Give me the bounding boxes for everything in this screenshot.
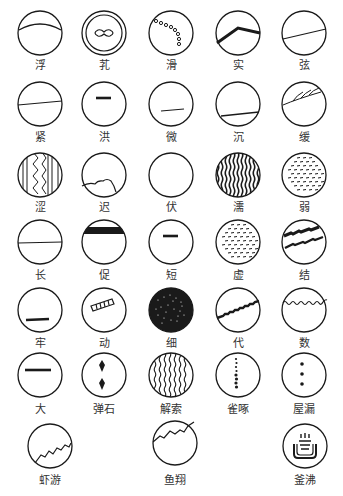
pulse-label: 洪 xyxy=(74,132,134,144)
pulse-zigzag-stripes-icon xyxy=(15,150,65,200)
pulse-label: 实 xyxy=(208,60,268,72)
pulse-figure-lao xyxy=(10,285,70,335)
pulse-label: 釜沸 xyxy=(275,475,335,487)
pulse-figure-xi xyxy=(141,285,201,335)
pulse-label: 虚 xyxy=(208,270,268,282)
pulse-label: 滑 xyxy=(141,60,201,72)
pulse-figure-yuxiang xyxy=(145,418,205,468)
pulse-figure-dong xyxy=(74,285,134,335)
pulse-figure-ruo xyxy=(274,150,334,200)
pulse-figure-xu xyxy=(208,217,268,267)
pulse-feather-icon xyxy=(279,79,329,129)
pulse-label: 弦 xyxy=(274,60,334,72)
pulse-label: 促 xyxy=(74,270,134,282)
pulse-figure-wei xyxy=(141,79,201,129)
pulse-figure-jiesuo xyxy=(141,350,201,400)
pulse-figure-se xyxy=(10,150,70,200)
pulse-bent-thick-icon xyxy=(213,8,263,58)
pulse-rough-diagonal-icon xyxy=(213,285,263,335)
pulse-three-dots-icon xyxy=(279,350,329,400)
pulse-figure-quezhuo xyxy=(208,350,268,400)
pulse-figure-chen xyxy=(208,79,268,129)
pulse-figure-xian xyxy=(274,8,334,58)
pulse-figure-dai xyxy=(208,285,268,335)
pulse-figure-fu xyxy=(10,8,70,58)
pulse-label: 微 xyxy=(141,132,201,144)
pulse-mid-line-icon xyxy=(15,217,65,267)
pulse-label: 大 xyxy=(10,404,70,416)
pulse-beads-icon xyxy=(146,8,196,58)
pulse-dashes-icon xyxy=(279,150,329,200)
pulse-double-ring-icon xyxy=(79,8,129,58)
pulse-top-band-icon xyxy=(79,217,129,267)
pulse-low-waves-icon xyxy=(79,150,129,200)
pulse-wavy-top-icon xyxy=(279,285,329,335)
pulse-low-short-thick-icon xyxy=(15,285,65,335)
pulse-label: 雀啄 xyxy=(208,404,268,416)
pulse-figure-da xyxy=(10,350,70,400)
pulse-label: 屋漏 xyxy=(274,404,334,416)
pulse-figure-hua xyxy=(141,8,201,58)
pulse-upper-line-icon xyxy=(15,79,65,129)
pulse-empty-icon xyxy=(146,150,196,200)
pulse-label: 长 xyxy=(10,270,70,282)
pulse-label: 细 xyxy=(141,338,201,350)
pulse-figure-shu xyxy=(274,285,334,335)
pulse-figure-fu2 xyxy=(141,150,201,200)
pulse-figure-duan xyxy=(141,217,201,267)
pulse-high-jagged-icon xyxy=(150,418,200,468)
pulse-figure-xiayou xyxy=(20,421,80,471)
pulse-figure-shi xyxy=(208,8,268,58)
pulse-label: 伏 xyxy=(141,202,201,214)
pulse-figure-chang xyxy=(10,217,70,267)
pulse-filled-icon xyxy=(146,285,196,335)
pulse-label: 弱 xyxy=(274,202,334,214)
pulse-short-top-thick-icon xyxy=(79,79,129,129)
pulse-upper-short-thick-icon xyxy=(15,350,65,400)
pulse-figure-chi xyxy=(74,150,134,200)
pulse-figure-jie xyxy=(274,217,334,267)
pulse-label: 牢 xyxy=(10,338,70,350)
pulse-label: 结 xyxy=(274,270,334,282)
pulse-label: 沉 xyxy=(208,132,268,144)
pulse-low-jagged-icon xyxy=(25,421,75,471)
pulse-label: 动 xyxy=(74,338,134,350)
pulse-figure-kou xyxy=(74,8,134,58)
pulse-figure-hong xyxy=(74,79,134,129)
pulse-diagonal-line-icon xyxy=(279,8,329,58)
pulse-label: 芤 xyxy=(74,60,134,72)
pulse-label: 浮 xyxy=(10,60,70,72)
pulse-label: 迟 xyxy=(74,202,134,214)
pulse-dashes-icon xyxy=(213,217,263,267)
pulse-double-rough-icon xyxy=(279,217,329,267)
pulse-label: 弹石 xyxy=(74,404,134,416)
pulse-cauldron-icon xyxy=(280,421,330,471)
pulse-low-line-icon xyxy=(213,79,263,129)
pulse-label: 解索 xyxy=(141,404,201,416)
pulse-figure-ru xyxy=(208,150,268,200)
pulse-figure-fufei xyxy=(275,421,335,471)
pulse-wavy-stripes-icon xyxy=(146,350,196,400)
pulse-low-thin-line-icon xyxy=(146,79,196,129)
pulse-figure-tanshi xyxy=(74,350,134,400)
pulse-arc-top-icon xyxy=(15,8,65,58)
pulse-label: 代 xyxy=(208,338,268,350)
pulse-label: 短 xyxy=(141,270,201,282)
pulse-label: 濡 xyxy=(208,202,268,214)
pulse-label: 紧 xyxy=(10,132,70,144)
pulse-label: 鱼翔 xyxy=(145,475,205,487)
pulse-label: 涩 xyxy=(10,202,70,214)
pulse-ladder-icon xyxy=(79,285,129,335)
pulse-two-diamonds-icon xyxy=(79,350,129,400)
pulse-figure-huan xyxy=(274,79,334,129)
pulse-label: 虾游 xyxy=(20,475,80,487)
pulse-figure-wulou xyxy=(274,350,334,400)
pulse-dense-stripes-icon xyxy=(213,150,263,200)
pulse-figure-cu xyxy=(74,217,134,267)
pulse-label: 缓 xyxy=(274,132,334,144)
pulse-short-top-thick-icon xyxy=(146,217,196,267)
pulse-label: 数 xyxy=(274,338,334,350)
pulse-dot-column-icon xyxy=(213,350,263,400)
pulse-figure-jin xyxy=(10,79,70,129)
